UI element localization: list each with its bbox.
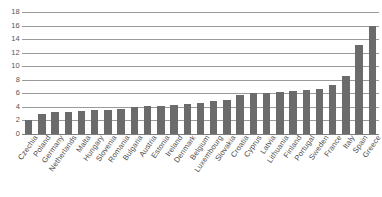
y-tick-label: 10 <box>0 62 20 70</box>
plot-area <box>22 12 379 134</box>
y-tick-label: 12 <box>0 49 20 57</box>
y-tick-label: 4 <box>0 103 20 111</box>
bar <box>210 101 217 134</box>
y-tick-label: 14 <box>0 35 20 43</box>
bar <box>276 92 283 134</box>
bar <box>78 111 85 134</box>
bar <box>104 110 111 134</box>
y-tick-label: 2 <box>0 116 20 124</box>
bar <box>51 112 58 134</box>
bar <box>38 114 45 134</box>
bar <box>303 90 310 134</box>
bars-series <box>22 12 379 134</box>
bar <box>342 76 349 134</box>
bar <box>91 110 98 134</box>
y-tick-label: 8 <box>0 76 20 84</box>
bar <box>170 105 177 134</box>
y-tick-label: 0 <box>0 130 20 138</box>
bar <box>223 100 230 134</box>
bar <box>184 104 191 134</box>
bar <box>131 107 138 134</box>
bar <box>316 89 323 134</box>
x-axis: CzechiaPolandGermanyNetherlandsMaltaHung… <box>22 134 379 197</box>
y-tick-label: 18 <box>0 8 20 16</box>
bar <box>117 109 124 134</box>
bar <box>25 120 32 134</box>
bar <box>263 93 270 134</box>
bar <box>369 26 376 134</box>
bar <box>289 91 296 134</box>
bar <box>236 95 243 134</box>
bar <box>355 45 362 134</box>
bar <box>329 85 336 134</box>
bar <box>144 106 151 134</box>
bar <box>250 93 257 134</box>
y-tick-label: 16 <box>0 22 20 30</box>
y-axis: 024681012141618 <box>0 12 20 134</box>
bar <box>157 106 164 134</box>
y-tick-label: 6 <box>0 89 20 97</box>
bar <box>197 103 204 134</box>
bar-chart: 024681012141618 CzechiaPolandGermanyNeth… <box>0 0 382 197</box>
bar <box>65 112 72 134</box>
